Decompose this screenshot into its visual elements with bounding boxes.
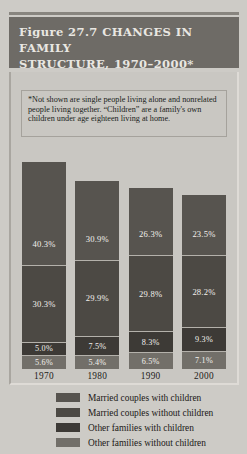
bar-segment: 9.3% xyxy=(182,327,226,351)
bar-column: 30.9%29.9%7.5%5.4% xyxy=(75,141,119,369)
x-axis-tick-2000: 2000 xyxy=(182,371,226,381)
bar-segment: 8.3% xyxy=(129,331,173,352)
bar-column: 26.3%29.8%8.3%6.5% xyxy=(129,141,173,369)
x-axis-tick-labels: 1970198019902000 xyxy=(22,371,226,381)
bar-segment: 7.5% xyxy=(75,336,119,355)
title-top-rule xyxy=(9,12,239,15)
legend-label: Other families without children xyxy=(88,438,206,448)
bar-value-label: 7.1% xyxy=(195,356,213,365)
title-line-1: Figure 27.7 CHANGES IN FAMILY xyxy=(19,25,192,55)
bar-value-label: 9.3% xyxy=(195,335,213,344)
bar-value-label: 30.9% xyxy=(86,234,109,244)
bar-segment: 30.3% xyxy=(22,265,66,342)
figure-title-banner: Figure 27.7 CHANGES IN FAMILY STRUCTURE,… xyxy=(9,17,239,68)
legend-swatch-icon xyxy=(56,393,80,402)
legend-item: Other families with children xyxy=(0,420,247,435)
bar-value-label: 28.2% xyxy=(192,287,215,297)
legend-label: Married couples with children xyxy=(88,393,201,403)
x-axis-tick-1980: 1980 xyxy=(75,371,119,381)
legend-item: Married couples without children xyxy=(0,405,247,420)
bar-value-label: 30.3% xyxy=(32,299,55,309)
x-axis-tick-1990: 1990 xyxy=(129,371,173,381)
figure-container: Figure 27.7 CHANGES IN FAMILY STRUCTURE,… xyxy=(0,0,247,454)
legend-swatch-icon xyxy=(56,438,80,447)
legend-item: Married couples with children xyxy=(0,390,247,405)
bar-segment: 7.1% xyxy=(182,351,226,369)
stacked-bars: 40.3%30.3%5.0%5.6%30.9%29.9%7.5%5.4%26.3… xyxy=(22,141,226,369)
legend-swatch-icon xyxy=(56,423,80,432)
title-line-2: STRUCTURE, 1970–2000* xyxy=(19,56,229,72)
bar-value-label: 6.5% xyxy=(142,357,160,366)
bar-value-label: 29.8% xyxy=(139,289,162,299)
bar-value-label: 26.3% xyxy=(139,229,162,239)
bar-value-label: 40.3% xyxy=(32,239,55,249)
legend-item: Other families without children xyxy=(0,435,247,450)
bar-segment: 6.5% xyxy=(129,352,173,369)
bar-value-label: 29.9% xyxy=(86,293,109,303)
bar-value-label: 5.6% xyxy=(35,358,53,367)
bar-value-label: 5.4% xyxy=(88,358,106,367)
bar-segment: 29.8% xyxy=(129,255,173,331)
bar-column: 40.3%30.3%5.0%5.6% xyxy=(22,141,66,369)
bar-segment: 5.0% xyxy=(22,342,66,355)
x-axis-tick-1970: 1970 xyxy=(22,371,66,381)
bar-segment: 30.9% xyxy=(75,181,119,260)
bar-segment: 5.4% xyxy=(75,355,119,369)
chart-legend: Married couples with childrenMarried cou… xyxy=(0,390,247,454)
bar-value-label: 8.3% xyxy=(142,338,160,347)
bar-segment: 29.9% xyxy=(75,260,119,336)
bar-value-label: 23.5% xyxy=(192,229,215,239)
legend-label: Married couples without children xyxy=(88,408,213,418)
bar-segment: 5.6% xyxy=(22,355,66,369)
bar-column: 23.5%28.2%9.3%7.1% xyxy=(182,141,226,369)
footnote-text: *Not shown are single people living alon… xyxy=(28,95,220,124)
bar-segment: 40.3% xyxy=(22,162,66,265)
footnote-box: *Not shown are single people living alon… xyxy=(21,90,227,137)
legend-label: Other families with children xyxy=(88,423,194,433)
bar-segment: 23.5% xyxy=(182,195,226,255)
page-title: Figure 27.7 CHANGES IN FAMILY STRUCTURE,… xyxy=(19,24,229,72)
bar-segment: 26.3% xyxy=(129,188,173,255)
plot-area: 40.3%30.3%5.0%5.6%30.9%29.9%7.5%5.4%26.3… xyxy=(22,141,226,369)
bar-value-label: 5.0% xyxy=(35,344,53,353)
bar-value-label: 7.5% xyxy=(88,342,106,351)
legend-swatch-icon xyxy=(56,408,80,417)
bar-segment: 28.2% xyxy=(182,255,226,327)
